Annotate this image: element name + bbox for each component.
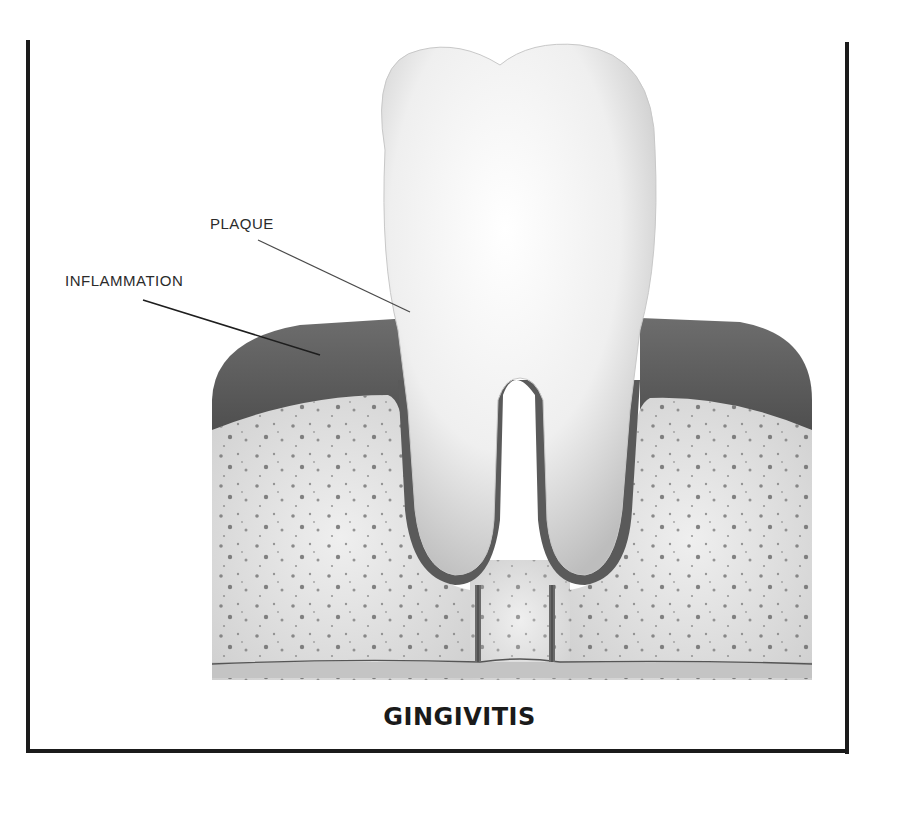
diagram-title: GINGIVITIS: [0, 703, 919, 731]
plaque-label: PLAQUE: [210, 215, 274, 232]
inflammation-label: INFLAMMATION: [65, 272, 183, 289]
bone: [212, 395, 812, 680]
tooth: [382, 44, 656, 575]
gingivitis-illustration: [0, 0, 919, 816]
